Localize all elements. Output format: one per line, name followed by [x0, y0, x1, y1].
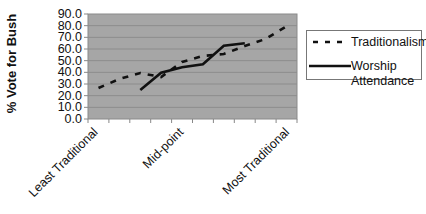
legend: Traditionalism Worship Attendance [306, 30, 422, 80]
solid-line-swatch-icon [309, 64, 351, 68]
dashed-line-swatch-icon [313, 40, 347, 44]
